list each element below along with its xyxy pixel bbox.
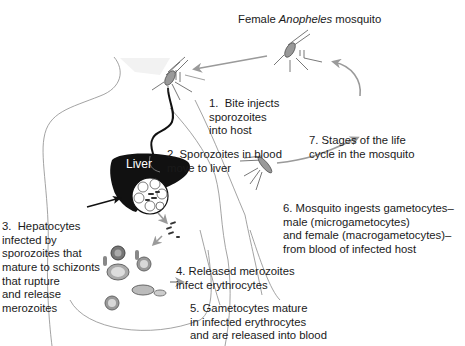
merozoite-cell [103, 256, 107, 266]
arrow-step1-pointer [185, 75, 205, 80]
arrow-merozoites-infect [154, 236, 162, 244]
genus-name: Anopheles [279, 13, 332, 25]
arrow-stage7-up [334, 62, 360, 96]
step-7-label: 7. Stages of the lifecycle in the mosqui… [309, 107, 415, 175]
arrow-liver-to-blood [158, 213, 166, 222]
step-2-label: 2. Sporozoites in bloodmove to liver [167, 121, 282, 189]
mosquito-top [274, 30, 322, 72]
released-merozoites [166, 221, 180, 238]
erythrocytes [103, 246, 166, 310]
liver-label: Liver [126, 157, 152, 171]
gametocyte [132, 285, 154, 295]
gametocyte [154, 290, 166, 296]
step-6-label: 6. Mosquito ingests gametocytes–male (mi… [283, 175, 454, 270]
neck-shading [120, 58, 170, 75]
merozoite-cell [135, 250, 139, 260]
step-3-label: 3. Hepatocytesinfected bysporozoites tha… [2, 193, 100, 329]
step-5-label: 5. Gametocytes maturein infected erythro… [190, 275, 327, 346]
arrow-mosquito-to-host [195, 56, 267, 69]
diagram-title: Female Anopheles mosquito [238, 13, 381, 25]
